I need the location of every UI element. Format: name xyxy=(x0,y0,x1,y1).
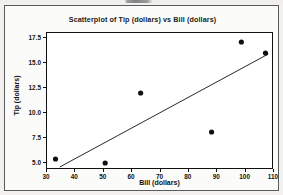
chart-title: Scatterplot of Tip (dollars) vs Bill (do… xyxy=(5,15,280,24)
y-axis-title: Tip (dollars) xyxy=(13,61,20,131)
data-point xyxy=(209,129,214,134)
x-tick-label: 40 xyxy=(71,173,78,180)
x-axis-title: Bill (dollars) xyxy=(46,179,273,186)
data-point xyxy=(138,90,143,95)
data-point xyxy=(263,50,268,55)
x-tick-label: 30 xyxy=(42,173,49,180)
x-tick-label: 100 xyxy=(239,173,250,180)
data-points xyxy=(53,39,268,165)
x-tick-label: 110 xyxy=(268,173,278,180)
x-tick-label: 70 xyxy=(156,173,163,180)
figure-frame: Scatterplot of Tip (dollars) vs Bill (do… xyxy=(4,5,279,191)
y-tick-label: 17.5 xyxy=(15,34,41,41)
data-point xyxy=(103,160,108,165)
regression-line-segment xyxy=(60,54,269,167)
data-point xyxy=(239,39,244,44)
data-point xyxy=(53,156,58,161)
regression-line xyxy=(60,54,269,167)
plot-panel xyxy=(46,32,273,169)
y-tick-label: 7.5 xyxy=(15,134,41,141)
scan-artifact xyxy=(0,0,283,3)
scatterplot-screenshot: Scatterplot of Tip (dollars) vs Bill (do… xyxy=(0,0,283,195)
x-tick-label: 80 xyxy=(184,173,191,180)
x-tick-label: 50 xyxy=(99,173,106,180)
plot-canvas xyxy=(47,33,274,170)
x-tick-label: 90 xyxy=(213,173,220,180)
x-tick-label: 60 xyxy=(128,173,135,180)
y-tick-label: 5.0 xyxy=(15,159,41,166)
y-tick-label: 12.5 xyxy=(15,84,41,91)
y-tick-label: 15.0 xyxy=(15,59,41,66)
y-tick-label: 10.0 xyxy=(15,109,41,116)
